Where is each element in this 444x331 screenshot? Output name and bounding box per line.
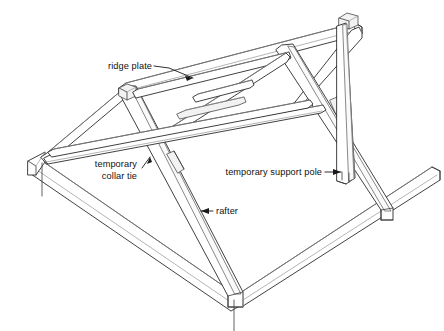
callout-support-pole-label: temporary support pole: [225, 167, 322, 177]
truss-drawing: ridge plate temporary collar tie tempora…: [0, 0, 444, 331]
callout-collar-tie-label-line2: collar tie: [102, 171, 137, 181]
callout-leader-rafter: [201, 208, 213, 214]
truss-diagram: ridge plate temporary collar tie tempora…: [0, 0, 444, 331]
callout-rafter-label: rafter: [216, 206, 238, 216]
wall-plate-right: [236, 167, 440, 306]
near-rafter-right: [276, 44, 393, 220]
callout-collar-tie-label-line1: temporary: [95, 159, 137, 169]
callout-leader-collar-tie: [142, 157, 152, 168]
callout-ridge-plate-label: ridge plate: [108, 61, 152, 71]
